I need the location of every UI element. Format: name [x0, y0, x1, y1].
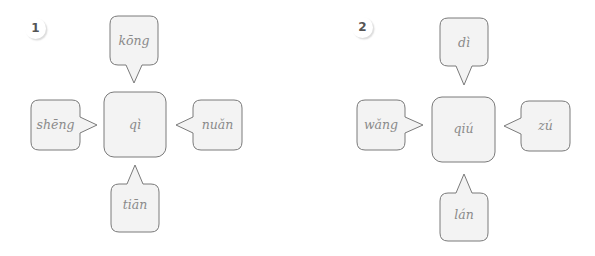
- exercise-2: 2 dì wǎng qiú zú lán: [0, 0, 595, 256]
- word-web-diagram-2: [0, 0, 595, 256]
- right-syllable: zú: [521, 118, 570, 134]
- center-syllable: qiú: [432, 121, 495, 137]
- top-bubble-shape: [440, 18, 488, 85]
- bottom-syllable: lán: [440, 207, 488, 223]
- top-syllable: dì: [440, 35, 488, 51]
- left-syllable: wǎng: [357, 117, 405, 133]
- exercise-number-badge: 2: [352, 17, 373, 38]
